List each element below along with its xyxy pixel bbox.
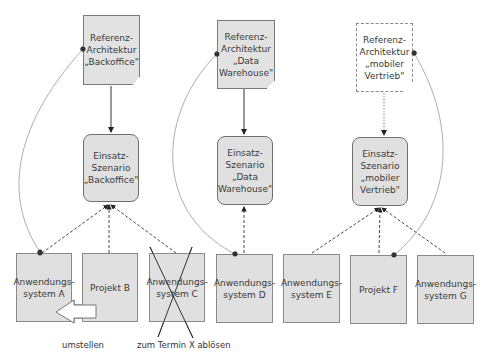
system-c[interactable]: Anwendungs- system C bbox=[149, 253, 205, 322]
system-label: Anwendungs- system C bbox=[146, 276, 207, 300]
system-label: Anwendungs- system D bbox=[214, 277, 275, 301]
system-label: Anwendungs- system E bbox=[281, 277, 342, 301]
scenario-label: Einsatz- Szenario „Backoffice" bbox=[84, 150, 139, 186]
scenario-backoffice[interactable]: Einsatz- Szenario „Backoffice" bbox=[83, 134, 139, 202]
reference-architecture-data-warehouse[interactable]: Referenz- Architektur „Data Warehouse" bbox=[217, 20, 275, 89]
reference-architecture-label: Referenz- Architektur „mobiler Vertrieb" bbox=[359, 34, 409, 82]
system-label: Projekt F bbox=[359, 284, 398, 296]
reference-architecture-label: Referenz- Architektur „Backoffice" bbox=[84, 32, 139, 68]
project-f[interactable]: Projekt F bbox=[350, 255, 407, 324]
project-b[interactable]: Projekt B bbox=[82, 253, 138, 322]
reference-architecture-mobiler-vertrieb[interactable]: Referenz- Architektur „mobiler Vertrieb" bbox=[356, 23, 413, 92]
scenario-data-warehouse[interactable]: Einsatz- Szenario „Data Warehouse" bbox=[217, 136, 273, 205]
scenario-label: Einsatz- Szenario „Data Warehouse" bbox=[218, 147, 272, 195]
system-label: Anwendungs- system A bbox=[13, 276, 74, 300]
reference-architecture-label: Referenz- Architektur „Data Warehouse" bbox=[219, 31, 273, 79]
system-a[interactable]: Anwendungs- system A bbox=[16, 253, 72, 322]
annotation-abloesen: zum Termin X ablösen bbox=[137, 340, 231, 350]
system-label: Anwendungs- system G bbox=[415, 278, 476, 302]
annotation-umstellen: umstellen bbox=[62, 340, 104, 350]
reference-architecture-backoffice[interactable]: Referenz- Architektur „Backoffice" bbox=[83, 15, 140, 85]
system-e[interactable]: Anwendungs- system E bbox=[283, 254, 340, 323]
system-label: Projekt B bbox=[90, 282, 130, 294]
system-g[interactable]: Anwendungs- system G bbox=[417, 255, 474, 324]
scenario-mobiler-vertrieb[interactable]: Einsatz- Szenario „mobiler Vertrieb" bbox=[352, 137, 408, 206]
scenario-label: Einsatz- Szenario „mobiler Vertrieb" bbox=[360, 148, 400, 196]
system-d[interactable]: Anwendungs- system D bbox=[216, 254, 273, 323]
